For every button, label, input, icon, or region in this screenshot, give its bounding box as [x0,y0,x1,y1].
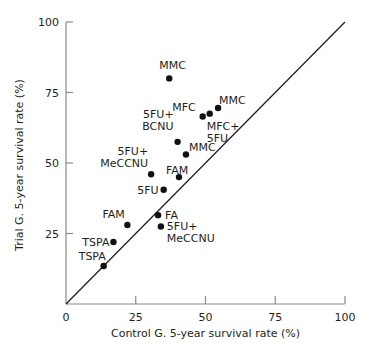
x-ticks: 0255075100 [63,296,356,324]
point-marker [110,239,116,245]
x-tick-label: 0 [63,311,70,324]
point-marker [148,171,154,177]
point-marker [206,110,212,116]
point-marker [160,187,166,193]
point-label: TSPA [78,250,107,263]
point-label: MFC [172,101,196,114]
x-tick-label: 50 [199,311,213,324]
data-point: TSPA [78,250,107,269]
point-marker [124,222,130,228]
data-point: MFC+5FU [206,110,239,144]
point-label: 5FU+MeCCNU [167,220,215,245]
point-label: FAM [102,208,124,221]
data-point: 5FU+MeCCNU [158,220,215,245]
data-point: FAM [102,208,130,228]
data-point: MMC [159,59,186,81]
data-point: MMC [215,94,246,111]
point-label-line: BCNU [142,120,173,133]
point-label-line: MeCCNU [167,232,215,245]
x-tick-label: 100 [335,311,356,324]
point-label-line: MMC [189,141,216,154]
point-label: MMC [219,94,246,107]
point-label: 5FU+BCNU [142,108,173,133]
x-axis-title: Control G. 5-year survival rate (%) [111,327,300,340]
y-tick-label: 50 [45,157,59,170]
data-point: 5FU [137,184,167,197]
axes: 0255075100 255075100 [38,16,356,324]
point-label: 5FU [137,184,158,197]
point-label-line: FAM [102,208,124,221]
point-marker [100,263,106,269]
x-tick-label: 25 [129,311,143,324]
data-point: 5FU+MeCCNU [100,145,154,177]
point-label-line: MFC [172,101,196,114]
point-marker [200,113,206,119]
data-point: TSPA [81,236,116,249]
data-points: MMCMMCMFC+5FUMFC5FU+BCNUMMCFAM5FU+MeCCNU… [78,59,246,269]
y-tick-label: 100 [38,16,59,29]
y-ticks: 255075100 [38,16,73,241]
point-marker [155,212,161,218]
data-point: MMC [183,141,216,158]
point-marker [158,223,164,229]
point-label-line: MMC [159,59,186,72]
point-label: 5FU+MeCCNU [100,145,148,170]
point-label-line: TSPA [81,236,110,249]
point-label: MMC [159,59,186,72]
point-label-line: FAM [166,164,188,177]
data-point: FAM [166,164,188,180]
point-label-line: TSPA [78,250,107,263]
y-axis-title: Trial G. 5-year survival rate (%) [13,79,26,252]
point-label-line: MeCCNU [100,157,148,170]
data-point: MFC [172,101,206,119]
y-tick-label: 75 [45,87,59,100]
point-label-line: 5FU [137,184,158,197]
point-label-line: MMC [219,94,246,107]
point-marker [166,75,172,81]
point-label: TSPA [81,236,110,249]
x-tick-label: 75 [268,311,282,324]
scatter-chart: 0255075100 255075100 MMCMMCMFC+5FUMFC5FU… [0,0,373,353]
point-label: MMC [189,141,216,154]
y-tick-label: 25 [45,228,59,241]
point-marker [174,139,180,145]
point-label: FAM [166,164,188,177]
